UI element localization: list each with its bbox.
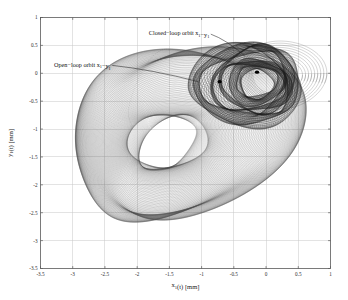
orbit-plot: -3.5-3-2.5-2-1.5-1-0.500.51-3.5-3-2.5-2-… [0, 0, 348, 300]
y-tick-label: -1.5 [29, 154, 38, 160]
x-tick-label: 0.5 [295, 271, 302, 277]
y-tick-label: 1 [35, 14, 38, 20]
x-tick-label: -2 [135, 271, 140, 277]
y-tick-label: -2.5 [29, 210, 38, 216]
y-tick-label: -0.5 [29, 98, 38, 104]
y-tick-label: -3.5 [29, 265, 38, 271]
y-tick-label: 0.5 [31, 42, 38, 48]
x-tick-label: -1.5 [165, 271, 174, 277]
x-tick-label: -3.5 [36, 271, 45, 277]
open-loop-marker [217, 80, 221, 83]
x-tick-label: -1 [199, 271, 204, 277]
figure-container: -3.5-3-2.5-2-1.5-1-0.500.51-3.5-3-2.5-2-… [0, 0, 348, 300]
closed-loop-marker [255, 70, 259, 73]
x-tick-label: -3 [71, 271, 76, 277]
x-tick-label: 1 [329, 271, 332, 277]
x-tick-label: -0.5 [230, 271, 239, 277]
y-tick-label: -3 [33, 238, 38, 244]
y-tick-label: 0 [35, 70, 38, 76]
plot-background [0, 0, 348, 300]
x-tick-label: -2.5 [101, 271, 110, 277]
y-tick-label: -2 [33, 182, 38, 188]
x-tick-label: 0 [265, 271, 268, 277]
y-tick-label: -1 [33, 126, 38, 132]
